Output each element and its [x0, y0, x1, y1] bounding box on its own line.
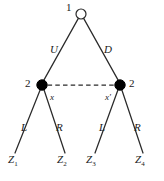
node-label-right-player: 2	[129, 78, 135, 89]
edge-label-D: D	[104, 44, 112, 55]
edge-label-L1: L	[21, 122, 27, 133]
node-label-root-player: 1	[66, 2, 72, 13]
leaf-label-z1: Z1	[8, 154, 18, 168]
leaf-sub-z3: 3	[92, 160, 96, 168]
edge-line-U	[44, 19, 79, 81]
leaf-label-z3: Z3	[86, 154, 96, 168]
edge-label-R1: R	[56, 122, 63, 133]
leaf-sub-z1: 1	[14, 160, 18, 168]
edge-line-L1	[15, 90, 40, 153]
edge-label-R2: R	[134, 122, 141, 133]
leaf-label-z4: Z4	[135, 154, 145, 168]
node-right-player2[interactable]	[115, 80, 125, 90]
game-tree-figure: 1 2 2 U D L R L R x x′ Z1 Z2 Z3 Z4	[0, 0, 164, 181]
edge-line-D	[84, 19, 119, 81]
leaf-sub-z2: 2	[63, 160, 67, 168]
leaf-label-z2: Z2	[57, 154, 67, 168]
node-root[interactable]	[76, 9, 86, 19]
node-label-left-player: 2	[25, 78, 31, 89]
leaf-sub-z4: 4	[141, 160, 145, 168]
edge-label-U: U	[50, 44, 58, 55]
edge-label-L2: L	[99, 122, 105, 133]
node-name-label-x: x	[50, 93, 54, 102]
node-name-label-x-prime: x′	[105, 93, 111, 102]
node-left-player2[interactable]	[37, 80, 47, 90]
